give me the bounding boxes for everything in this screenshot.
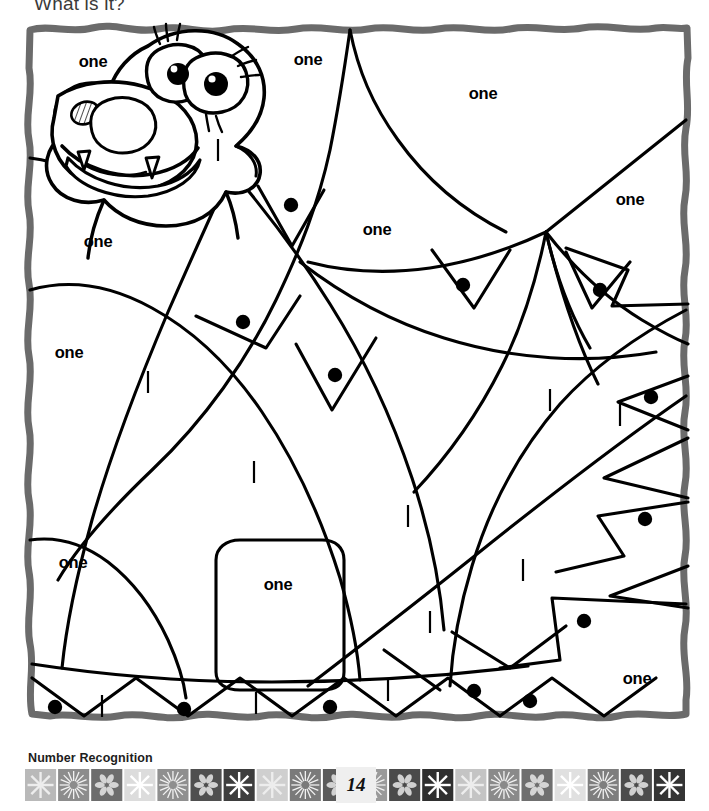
page-footer: Number Recognition 14 (0, 740, 709, 811)
region-word-label: one (469, 84, 498, 102)
region-dot-marker (177, 702, 191, 716)
region-dot-marker (328, 368, 342, 382)
region-word-label: one (363, 220, 392, 238)
footer-band-tile (290, 769, 321, 801)
page-number: 14 (336, 767, 376, 803)
region-dot-marker (638, 512, 652, 526)
worksheet-page: What is it? (0, 0, 709, 811)
region-dot-marker (323, 700, 337, 714)
region-word-label: one (264, 575, 293, 593)
footer-band-tile (157, 769, 188, 801)
region-dot-marker (48, 700, 62, 714)
region-word-label: one (616, 190, 645, 208)
footer-band-tile (654, 769, 685, 801)
region-word-label: one (79, 52, 108, 70)
color-by-number-picture: oneoneoneoneoneoneoneoneoneone (0, 0, 709, 740)
footer-band-tile (389, 769, 420, 801)
footer-band-tile (455, 769, 486, 801)
footer-band-tile (224, 769, 255, 801)
footer-band-tile (58, 769, 89, 801)
hippo-pupil-right (204, 72, 228, 96)
region-dot-marker (523, 694, 537, 708)
footer-band-tile (422, 769, 453, 801)
region-word-label: one (84, 232, 113, 250)
region-dot-marker (577, 614, 591, 628)
region-dot-marker (456, 278, 470, 292)
region-word-label: one (55, 343, 84, 361)
region-word-label: one (59, 553, 88, 571)
footer-band-tile (191, 769, 222, 801)
region-dot-marker (644, 390, 658, 404)
footer-subject-label: Number Recognition (28, 751, 153, 765)
footer-band-tile (25, 769, 56, 801)
region-dot-marker (467, 684, 481, 698)
footer-band-tile (522, 769, 553, 801)
region-dot-marker (236, 315, 250, 329)
footer-band-tile (555, 769, 586, 801)
region-word-label: one (623, 669, 652, 687)
region-dot-marker (593, 283, 607, 297)
footer-band-tile (488, 769, 519, 801)
region-dot-marker (284, 198, 298, 212)
footer-band-tile (588, 769, 619, 801)
footer-band-tile (91, 769, 122, 801)
footer-band-tile (124, 769, 155, 801)
footer-band-tile (621, 769, 652, 801)
region-word-label: one (294, 50, 323, 68)
footer-band-tile (257, 769, 288, 801)
hippo-pupil-left (167, 63, 189, 85)
